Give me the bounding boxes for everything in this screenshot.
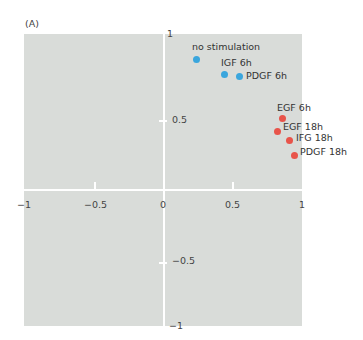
point-label-egf-6h: EGF 6h	[277, 102, 311, 113]
point-label-pdgf-6h: PDGF 6h	[246, 70, 287, 81]
data-point-igf-6h	[221, 71, 228, 78]
data-point-no-stimulation	[193, 56, 200, 63]
x-tick-label: 0.5	[225, 199, 240, 210]
data-point-ifg-18h	[286, 137, 293, 144]
point-label-igf-6h: IGF 6h	[221, 57, 252, 68]
x-tick-label: 1	[299, 199, 305, 210]
x-tick-label: −1	[17, 199, 31, 210]
data-point-pdgf-6h	[236, 73, 243, 80]
point-label-no-stimulation: no stimulation	[192, 41, 260, 52]
point-label-pdgf-18h: PDGF 18h	[300, 146, 347, 157]
data-point-egf-18h	[274, 128, 281, 135]
x-tick-label: 0	[160, 199, 166, 210]
y-tick-label: 1	[167, 28, 173, 39]
x-tick-label: −0.5	[84, 199, 107, 210]
x-tick-mark-0-5	[232, 182, 234, 190]
panel-label: (A)	[25, 18, 39, 29]
data-point-pdgf-18h	[291, 152, 298, 159]
y-tick-mark-neg-0-5	[159, 262, 167, 264]
y-tick-label: −0.5	[172, 255, 195, 266]
y-axis-line	[163, 34, 165, 326]
point-label-egf-18h: EGF 18h	[283, 121, 323, 132]
point-label-ifg-18h: IFG 18h	[296, 132, 333, 143]
y-tick-label: −1	[169, 320, 183, 331]
x-tick-mark-neg-0-5	[94, 182, 96, 190]
y-tick-label: 0.5	[172, 114, 187, 125]
y-tick-mark-0-5	[159, 120, 167, 122]
